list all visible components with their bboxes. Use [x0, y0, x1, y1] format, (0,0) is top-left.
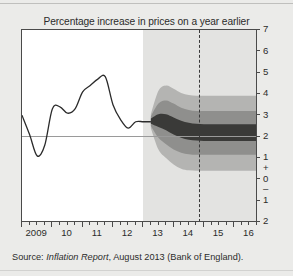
y-tick — [256, 72, 260, 73]
x-tick-major — [21, 222, 22, 227]
y-tick-label: 4 — [263, 88, 268, 98]
y-tick — [256, 178, 260, 179]
x-tick-label: 15 — [213, 228, 224, 238]
top-divider — [0, 3, 293, 4]
x-tick-minor — [74, 222, 75, 225]
y-tick-label: 5 — [263, 67, 268, 77]
x-tick-minor — [104, 222, 105, 225]
history-line-path — [22, 75, 151, 156]
y-tick — [256, 114, 260, 115]
x-tick-minor — [150, 222, 151, 225]
x-tick-minor — [44, 222, 45, 225]
x-tick-minor — [59, 222, 60, 225]
y-tick-label: 3 — [263, 110, 268, 120]
x-tick-minor — [211, 222, 212, 225]
y-tick-label: 7 — [263, 24, 268, 34]
y-axis-minus-sign: – — [263, 184, 268, 194]
x-tick-minor — [180, 222, 181, 225]
y-tick-label: 2 — [263, 216, 268, 226]
bottom-divider — [0, 270, 293, 271]
x-tick-label: 10 — [61, 228, 72, 238]
x-tick-major — [233, 222, 234, 227]
y-tick — [256, 157, 260, 158]
y-tick — [256, 50, 260, 51]
x-tick-minor — [97, 222, 98, 225]
y-tick — [256, 29, 260, 30]
x-tick-minor — [218, 222, 219, 225]
y-tick-label: 6 — [263, 46, 268, 56]
source-publication: Inflation Report — [46, 252, 108, 262]
y-tick-label: 2 — [263, 131, 268, 141]
y-tick — [256, 200, 260, 201]
y-tick-label: 1 — [263, 195, 268, 205]
x-tick-label: 11 — [92, 228, 102, 238]
chart-title: Percentage increase in prices on a year … — [0, 16, 293, 27]
chart-figure: Percentage increase in prices on a year … — [0, 0, 293, 276]
x-tick-minor — [165, 222, 166, 225]
y-tick — [256, 136, 260, 137]
y-tick — [256, 93, 260, 94]
x-tick-minor — [256, 222, 257, 225]
source-suffix: , August 2013 (Bank of England). — [109, 252, 244, 262]
y-axis-plus-sign: + — [263, 163, 269, 173]
x-tick-minor — [158, 222, 159, 225]
x-tick-minor — [89, 222, 90, 225]
x-tick-minor — [241, 222, 242, 225]
history-line — [22, 30, 257, 222]
x-tick-major — [112, 222, 113, 227]
x-tick-minor — [195, 222, 196, 225]
y-tick-label: 1 — [263, 152, 268, 162]
x-tick-label: 2009 — [26, 228, 47, 238]
plot-inner — [22, 30, 257, 222]
x-axis — [21, 221, 257, 222]
x-tick-minor — [120, 222, 121, 225]
x-tick-minor — [188, 222, 189, 225]
x-tick-minor — [29, 222, 30, 225]
y-axis — [256, 29, 257, 222]
x-tick-label: 12 — [122, 228, 133, 238]
x-tick-minor — [135, 222, 136, 225]
forecast-marker-line — [199, 30, 200, 222]
plot-area — [21, 29, 257, 222]
x-tick-major — [203, 222, 204, 227]
x-tick-minor — [248, 222, 249, 225]
x-tick-label: 14 — [182, 228, 193, 238]
y-tick-label: 0 — [263, 174, 268, 184]
x-tick-minor — [36, 222, 37, 225]
source-prefix: Source: — [12, 252, 46, 262]
x-tick-label: 13 — [152, 228, 163, 238]
x-tick-minor — [226, 222, 227, 225]
x-tick-major — [173, 222, 174, 227]
x-tick-major — [51, 222, 52, 227]
source-note: Source: Inflation Report, August 2013 (B… — [12, 252, 243, 262]
x-tick-major — [142, 222, 143, 227]
x-tick-label: 16 — [243, 228, 254, 238]
x-tick-minor — [127, 222, 128, 225]
x-tick-major — [82, 222, 83, 227]
x-tick-minor — [67, 222, 68, 225]
